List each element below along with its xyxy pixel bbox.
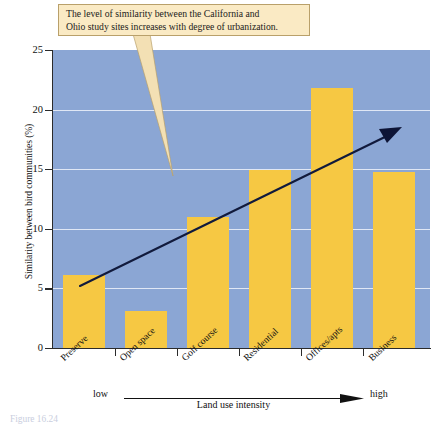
y-axis-title: Similarity between bird communities (%) (23, 82, 34, 322)
y-tick-mark-20 (45, 110, 52, 111)
annotation-callout: The level of similarity between the Cali… (58, 4, 310, 36)
bar-offices-apts[interactable] (311, 88, 353, 348)
bar-residential[interactable] (249, 170, 291, 348)
y-tick-label-25: 25 (3, 45, 43, 55)
bar-series (53, 50, 430, 348)
bar-business[interactable] (373, 172, 415, 348)
bar-slot-business (373, 50, 415, 348)
intensity-label-low: low (93, 388, 108, 399)
x-axis-title: Land use intensity (0, 399, 443, 410)
figure-caption: Figure 16.24 (10, 414, 430, 424)
figure-bird-community-similarity: 25 20 15 10 5 0 Similarity between bird … (0, 0, 443, 424)
y-tick-mark-15 (45, 169, 52, 170)
bar-slot-offices-apts (311, 50, 353, 348)
callout-line-1: The level of similarity between the Cali… (66, 8, 303, 21)
y-tick-label-0: 0 (3, 343, 43, 353)
plot-area (53, 50, 430, 348)
bar-slot-preserve (63, 50, 105, 348)
y-axis-line (52, 50, 53, 349)
bar-slot-residential (249, 50, 291, 348)
callout-line-2: Ohio study sites increases with degree o… (66, 21, 303, 34)
y-tick-mark-0 (45, 348, 52, 349)
y-tick-mark-5 (45, 288, 52, 289)
x-tick-mark-5 (363, 349, 364, 356)
bar-slot-open-space (125, 50, 167, 348)
y-tick-mark-10 (45, 229, 52, 230)
bar-slot-golf-course (187, 50, 229, 348)
y-tick-mark-25 (45, 50, 52, 51)
intensity-label-high: high (370, 388, 388, 399)
